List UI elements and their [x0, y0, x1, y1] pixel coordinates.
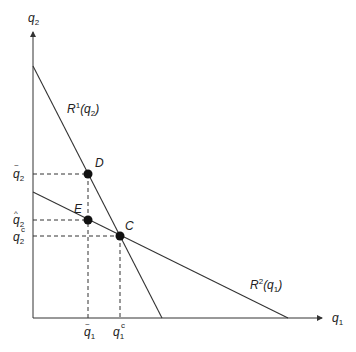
r2-curve [33, 192, 288, 318]
point-d-label: D [95, 156, 104, 170]
point-e [84, 216, 93, 225]
point-d [84, 170, 93, 179]
svg-text:~: ~ [85, 320, 90, 329]
reaction-function-diagram: q2 q1 R1(q2) R2(q1) D E C q2 ~ q2 ^ q2 c… [0, 0, 356, 352]
point-e-label: E [74, 202, 83, 216]
point-c [116, 232, 125, 241]
x-tick-q1-c: q1 c [113, 321, 125, 341]
x-tick-q1-tilde: q1 ~ [84, 320, 96, 341]
svg-text:c: c [21, 225, 25, 234]
y-axis-label: q2 [28, 11, 40, 27]
r1-label: R1(q2) [67, 101, 99, 118]
y-tick-q2-tilde: q2 ~ [13, 161, 25, 183]
svg-text:c: c [121, 321, 125, 330]
r2-label: R2(q1) [250, 277, 282, 294]
svg-text:^: ^ [14, 209, 18, 218]
svg-text:~: ~ [14, 161, 19, 170]
x-axis-label: q1 [332, 311, 344, 327]
point-c-label: C [125, 219, 134, 233]
